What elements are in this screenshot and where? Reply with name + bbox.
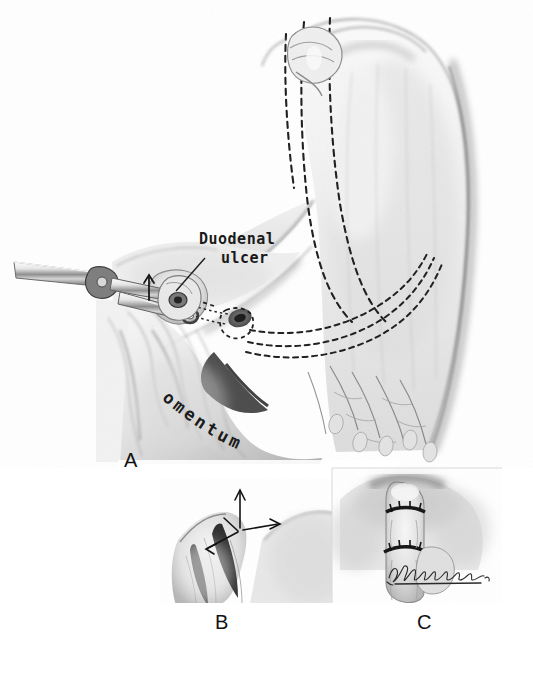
panel-label-b: B <box>215 611 228 634</box>
duodenal-ulcer-label-line2: ulcer <box>221 249 275 268</box>
panel-label-c: C <box>417 611 431 634</box>
duodenal-ulcer-label: Duodenalulcer <box>199 230 275 268</box>
panel-label-a: A <box>124 449 137 472</box>
artist-signature <box>385 562 495 590</box>
medical-illustration-figure: Duodenalulcer omentum A B C <box>0 0 533 680</box>
panel-b-artwork <box>160 478 350 606</box>
duodenal-ulcer-label-line1: Duodenal <box>199 230 275 248</box>
